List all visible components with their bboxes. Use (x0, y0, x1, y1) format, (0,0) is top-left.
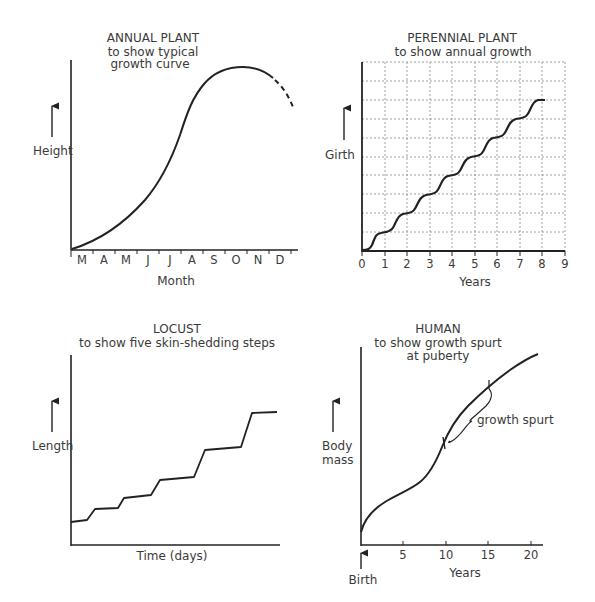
human-x-label: Years (449, 567, 481, 579)
month-tick: J (146, 255, 149, 267)
perennial-grid (362, 62, 565, 251)
locust-length-steps (71, 412, 277, 522)
annual-y-label: Height (33, 145, 73, 157)
human-title: HUMAN (415, 323, 460, 335)
human-year-tick: 15 (481, 550, 496, 562)
year-tick: 1 (381, 259, 388, 271)
annual-plant-chart (52, 60, 298, 257)
human-year-tick: 20 (524, 550, 539, 562)
growth-spurt-annotation: growth spurt (477, 414, 554, 426)
year-tick: 4 (448, 259, 455, 271)
year-tick: 9 (561, 259, 568, 271)
annual-title: ANNUAL PLANT (107, 32, 199, 44)
month-tick: M (121, 255, 131, 267)
year-tick: 6 (493, 259, 500, 271)
month-tick: A (188, 255, 196, 267)
perennial-y-label: Girth (325, 149, 355, 161)
human-y-label-line2: mass (322, 454, 354, 466)
year-tick: 8 (538, 259, 545, 271)
perennial-x-label: Years (459, 276, 491, 288)
annual-growth-curve (72, 67, 273, 249)
month-tick: O (231, 255, 240, 267)
locust-title: LOCUST (153, 323, 201, 335)
figure-canvas (0, 0, 595, 602)
human-mass-curve (361, 354, 538, 532)
locust-subtitle: to show five skin-shedding steps (79, 337, 275, 349)
human-year-tick: 5 (399, 550, 406, 562)
annual-decline-dashed (275, 80, 293, 107)
perennial-subtitle: to show annual growth (394, 46, 531, 58)
locust-chart (52, 355, 280, 546)
human-chart (333, 347, 543, 569)
annual-subtitle-line2: growth curve (110, 58, 189, 70)
month-tick: N (254, 255, 263, 267)
month-tick: S (210, 255, 217, 267)
annual-x-label: Month (157, 275, 195, 287)
month-tick: D (276, 255, 285, 267)
locust-x-label: Time (days) (137, 550, 208, 562)
perennial-girth-curve (362, 100, 545, 250)
year-tick: 2 (403, 259, 410, 271)
year-tick: 3 (426, 259, 433, 271)
perennial-title: PERENNIAL PLANT (407, 32, 517, 44)
month-tick: J (168, 255, 171, 267)
human-y-label-line1: Body (322, 440, 352, 452)
human-subtitle-line1: to show growth spurt (374, 337, 501, 349)
year-tick: 7 (516, 259, 523, 271)
year-tick: 0 (358, 259, 365, 271)
month-tick: M (77, 255, 87, 267)
birth-label: Birth (349, 574, 378, 586)
month-tick: A (100, 255, 108, 267)
year-tick: 5 (471, 259, 478, 271)
perennial-plant-chart (344, 62, 565, 256)
locust-y-label: Length (32, 440, 73, 452)
human-subtitle-line2: at puberty (407, 350, 470, 362)
human-year-tick: 10 (439, 550, 454, 562)
